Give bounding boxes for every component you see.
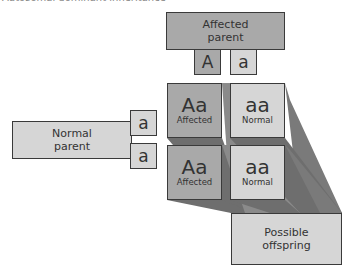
offspring-cell-top-left: Aa Affected [167, 83, 222, 138]
affected-parent-label-2: parent [207, 31, 243, 44]
normal-parent-label-1: Normal [52, 127, 92, 140]
possible-offspring-box: Possible offspring [231, 213, 342, 265]
offspring-cell-bottom-right: aa Normal [230, 145, 285, 200]
normal-allele-a-bottom: a [130, 143, 157, 169]
offspring-cell-top-right: aa Normal [230, 83, 285, 138]
affected-allele-A: A [194, 49, 221, 75]
normal-parent-label-2: parent [54, 140, 90, 153]
affected-parent-label-1: Affected [203, 18, 249, 31]
offspring-cell-bottom-left: Aa Affected [167, 145, 222, 200]
normal-allele-a-top: a [130, 110, 157, 136]
affected-allele-a: a [230, 49, 257, 75]
affected-parent-box: Affected parent [166, 12, 285, 50]
normal-parent-box: Normal parent [12, 121, 132, 159]
